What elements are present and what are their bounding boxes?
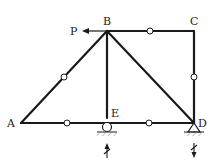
node-label-b: B [103,15,111,28]
load-label-p: P [70,25,78,38]
zero-mark-ed [146,120,152,126]
zero-mark-bc [147,28,153,34]
zero-mark-cd [191,74,197,80]
node-label-c: C [190,15,198,28]
truss-diagram: A B C D E P [0,0,214,168]
node-label-e: E [111,107,119,120]
roller-support-icon [97,123,117,137]
load-arrow-icon [82,28,106,34]
zero-mark-ab [61,74,67,80]
truss-svg: A B C D E P [0,0,214,168]
member-bd [107,31,194,123]
zero-mark-ae [64,120,70,126]
node-label-a: A [6,117,16,130]
reaction-arrow-down-icon [191,143,197,158]
node-label-d: D [198,117,207,130]
reaction-arrow-up-icon [104,143,110,158]
